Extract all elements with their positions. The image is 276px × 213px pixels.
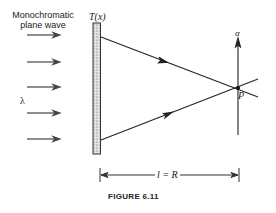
incident-wave-arrows bbox=[27, 33, 60, 142]
wave-arrow bbox=[27, 85, 60, 90]
wave-arrow bbox=[27, 111, 60, 116]
distance-label: l = R bbox=[155, 169, 180, 180]
transparency-slab bbox=[93, 23, 101, 154]
source-label-line2: plane wave bbox=[6, 20, 80, 30]
wavelength-label: λ bbox=[20, 95, 25, 106]
lower-ray bbox=[101, 79, 258, 140]
alpha-axis-label: α bbox=[235, 28, 240, 38]
source-label: Monochromatic plane wave bbox=[6, 10, 80, 30]
wave-arrow bbox=[27, 33, 60, 38]
transmittance-label: T(x) bbox=[89, 11, 106, 22]
wave-arrow bbox=[27, 60, 60, 65]
source-label-line1: Monochromatic bbox=[6, 10, 80, 20]
wave-arrow bbox=[27, 137, 60, 142]
figure-caption: FIGURE 6.11 bbox=[108, 192, 159, 201]
alpha-axis-arrowhead bbox=[236, 38, 241, 47]
point-p-label: P bbox=[238, 90, 244, 101]
rays bbox=[101, 37, 258, 140]
